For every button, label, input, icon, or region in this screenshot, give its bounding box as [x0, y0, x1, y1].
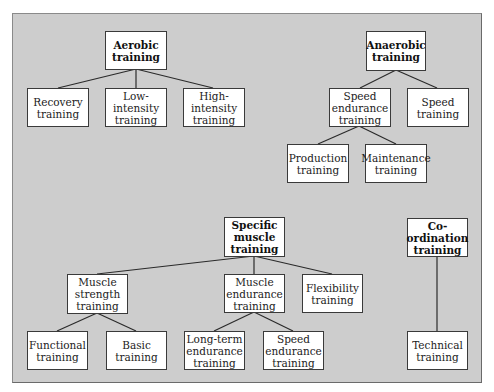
- node-specific-muscle-training: Specific muscle training: [224, 217, 285, 257]
- node-basic-training: Basic training: [106, 331, 167, 370]
- node-flexibility-training: Flexibility training: [302, 274, 363, 313]
- node-low-intensity-training: Low- intensity training: [105, 88, 167, 127]
- node-speed-endurance-training-anaerobic: Speed endurance training: [329, 88, 391, 127]
- node-technical-training: Technical training: [407, 331, 468, 370]
- node-speed-endurance-training-muscle: Speed endurance training: [263, 331, 324, 370]
- node-anaerobic-training: Anaerobic training: [366, 31, 426, 71]
- node-functional-training: Functional training: [27, 331, 88, 370]
- node-aerobic-training: Aerobic training: [105, 31, 167, 70]
- node-high-intensity-training: High- intensity training: [183, 88, 245, 127]
- node-maintenance-training: Maintenance training: [365, 144, 427, 183]
- node-co-ordination-training: Co- ordination training: [407, 218, 468, 257]
- node-production-training: Production training: [287, 144, 349, 183]
- node-muscle-strength-training: Muscle strength training: [67, 274, 128, 314]
- node-recovery-training: Recovery training: [27, 88, 89, 127]
- node-muscle-endurance-training: Muscle endurance training: [224, 274, 285, 313]
- node-long-term-endurance-training: Long-term endurance training: [184, 331, 245, 370]
- node-speed-training: Speed training: [407, 88, 469, 127]
